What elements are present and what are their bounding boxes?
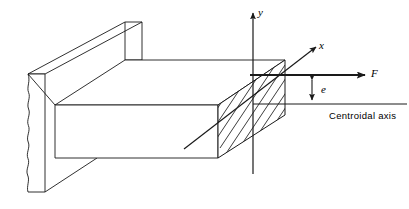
beam-front-face: [55, 105, 218, 158]
centroidal-axis-label: Centroidal axis: [329, 111, 396, 121]
figure-container: y x F e Centroidal axis: [0, 0, 409, 209]
x-axis-label: x: [319, 40, 324, 51]
y-axis-label: y: [258, 7, 263, 18]
eccentricity-label: e: [321, 84, 326, 95]
force-label: F: [371, 68, 378, 79]
wall-front-face: [27, 74, 45, 192]
junction-lower-diagonal: [45, 158, 97, 192]
beam-diagram-svg: [0, 0, 409, 209]
